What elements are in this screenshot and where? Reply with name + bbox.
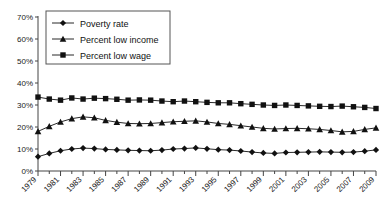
data-point-square (340, 103, 345, 108)
data-point-diamond (148, 148, 154, 154)
data-point-square (306, 103, 311, 108)
data-point-square (137, 97, 142, 102)
x-tick-label: 1981 (42, 175, 61, 194)
data-point-diamond (339, 149, 345, 155)
data-point-square (317, 104, 322, 109)
data-point-triangle (373, 125, 380, 131)
data-point-square (283, 102, 288, 107)
data-point-square (238, 101, 243, 106)
data-point-diamond (283, 149, 289, 155)
data-point-square (148, 97, 153, 102)
data-point-square (261, 102, 266, 107)
data-point-square (114, 97, 119, 102)
data-point-square (69, 95, 74, 100)
data-point-triangle (46, 123, 53, 129)
data-point-diamond (80, 145, 86, 151)
x-tick-label: 1993 (177, 175, 196, 194)
data-point-diamond (114, 147, 120, 153)
x-tick-label: 2001 (267, 175, 286, 194)
chart-container: 0%10%20%30%40%50%60%70%19791981198319851… (0, 0, 383, 209)
data-point-square (249, 102, 254, 107)
x-tick-label: 2003 (290, 175, 309, 194)
x-tick-label: 1979 (19, 175, 38, 194)
x-tick-label: 1999 (245, 175, 264, 194)
y-tick-label: 40% (17, 79, 33, 88)
data-point-diamond (362, 148, 368, 154)
data-point-square (216, 100, 221, 105)
legend-label-2: Percent low wage (80, 51, 151, 61)
x-tick-label: 1995 (200, 175, 219, 194)
data-point-diamond (69, 146, 75, 152)
data-point-diamond (226, 147, 232, 153)
data-point-diamond (317, 149, 323, 155)
data-point-square (193, 99, 198, 104)
data-point-square (204, 100, 209, 105)
data-point-square (373, 106, 378, 111)
x-tick-label: 2009 (357, 175, 376, 194)
data-point-square (351, 104, 356, 109)
data-point-square (171, 99, 176, 104)
data-point-diamond (238, 148, 244, 154)
data-point-square (103, 96, 108, 101)
data-point-square (125, 97, 130, 102)
y-tick-label: 10% (17, 145, 33, 154)
data-point-diamond (57, 148, 63, 154)
data-point-diamond (305, 149, 311, 155)
x-tick-label: 2007 (335, 175, 354, 194)
data-point-square (182, 98, 187, 103)
y-tick-label: 30% (17, 101, 33, 110)
data-point-diamond (125, 147, 131, 153)
series-poverty-rate (35, 145, 379, 160)
data-point-diamond (193, 145, 199, 151)
data-point-square (328, 104, 333, 109)
x-tick-label: 1997 (222, 175, 241, 194)
x-tick-label: 1989 (132, 175, 151, 194)
data-point-square (58, 97, 63, 102)
chart-legend: Poverty ratePercent low incomePercent lo… (46, 11, 170, 64)
x-tick-label: 1985 (87, 175, 106, 194)
data-point-diamond (91, 145, 97, 151)
series-percent-low-wage (35, 94, 378, 111)
y-tick-label: 60% (17, 35, 33, 44)
y-tick-label: 70% (17, 13, 33, 22)
data-point-square (159, 98, 164, 103)
data-point-diamond (249, 149, 255, 155)
data-point-diamond (328, 149, 334, 155)
data-point-square (47, 96, 52, 101)
data-point-diamond (35, 154, 41, 160)
legend-label-1: Percent low income (80, 35, 159, 45)
data-point-diamond (350, 149, 356, 155)
data-point-diamond (103, 146, 109, 152)
data-point-diamond (215, 147, 221, 153)
data-point-diamond (260, 150, 266, 156)
x-tick-label: 2005 (312, 175, 331, 194)
data-point-diamond (46, 150, 52, 156)
data-point-square (272, 103, 277, 108)
y-tick-label: 20% (17, 123, 33, 132)
data-point-square (60, 52, 65, 57)
data-point-square (362, 105, 367, 110)
data-point-diamond (272, 150, 278, 156)
x-tick-label: 1983 (65, 175, 84, 194)
data-point-diamond (204, 146, 210, 152)
data-point-square (227, 100, 232, 105)
data-point-square (80, 96, 85, 101)
data-point-diamond (373, 147, 379, 153)
line-chart: 0%10%20%30%40%50%60%70%19791981198319851… (0, 0, 383, 209)
data-point-diamond (136, 147, 142, 153)
data-point-triangle (35, 128, 42, 134)
legend-label-0: Poverty rate (80, 19, 129, 29)
data-point-square (92, 95, 97, 100)
data-point-square (294, 103, 299, 108)
data-point-diamond (294, 149, 300, 155)
data-point-diamond (181, 145, 187, 151)
x-tick-label: 1991 (155, 175, 174, 194)
data-point-diamond (159, 147, 165, 153)
series-percent-low-income (35, 114, 380, 135)
y-tick-label: 50% (17, 57, 33, 66)
data-point-square (35, 94, 40, 99)
x-tick-label: 1987 (110, 175, 129, 194)
data-point-diamond (170, 146, 176, 152)
